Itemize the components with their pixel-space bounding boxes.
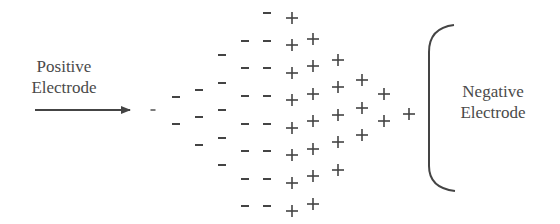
plus-charge-icon	[356, 129, 368, 141]
positive-electrode-label-line1: Positive	[14, 56, 114, 77]
electrode-charge-diagram: Positive Electrode Negative Electrode	[0, 0, 560, 224]
plus-charge-icon	[307, 60, 319, 72]
negative-electrode-label-line1: Negative	[444, 81, 542, 102]
positive-electrode-label: Positive Electrode	[14, 56, 114, 98]
plus-charge-icon	[356, 102, 368, 114]
plus-charge-icon	[307, 143, 319, 155]
plus-charge-icon	[286, 67, 298, 79]
plus-charge-icon	[332, 54, 344, 66]
plus-charge-icon	[378, 88, 390, 100]
positive-electrode-label-line2: Electrode	[14, 77, 114, 98]
plus-charge-icon	[307, 198, 319, 210]
plus-charge-icon	[332, 81, 344, 93]
plus-charge-icon	[378, 115, 390, 127]
negative-electrode-label-line2: Electrode	[444, 102, 542, 123]
plus-charge-icon	[286, 39, 298, 51]
plus-charge-icon	[286, 12, 298, 24]
negative-charges-group	[151, 13, 272, 206]
plus-charge-icon	[332, 136, 344, 148]
plus-charge-icon	[307, 88, 319, 100]
plus-charge-icon	[403, 108, 415, 120]
negative-electrode-label: Negative Electrode	[444, 81, 542, 123]
positive-charges-group	[286, 12, 415, 217]
plus-charge-icon	[307, 170, 319, 182]
plus-charge-icon	[286, 149, 298, 161]
plus-charge-icon	[307, 33, 319, 45]
plus-charge-icon	[286, 122, 298, 134]
plus-charge-icon	[356, 74, 368, 86]
plus-charge-icon	[332, 164, 344, 176]
plus-charge-icon	[332, 109, 344, 121]
plus-charge-icon	[307, 115, 319, 127]
plus-charge-icon	[286, 177, 298, 189]
plus-charge-icon	[286, 205, 298, 217]
plus-charge-icon	[286, 94, 298, 106]
